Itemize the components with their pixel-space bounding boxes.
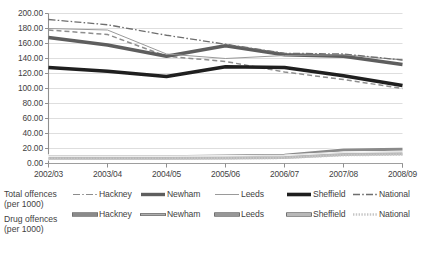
- legend-item-label: Newham: [167, 209, 200, 219]
- legend-item-sheffield-drug[interactable]: Sheffield: [286, 208, 345, 220]
- series-line: [49, 67, 403, 86]
- x-axis-tick-label: 2003/04: [78, 170, 138, 179]
- legend-swatch-dash-dot-thin: [72, 189, 98, 200]
- legend-group-drug-line1: Drug offences: [4, 214, 57, 224]
- x-axis-tick-label: 2006/07: [255, 170, 315, 179]
- legend-swatch-solid-thick-lightgrey: [286, 209, 312, 220]
- legend-item-hackney-drug[interactable]: Hackney: [72, 208, 132, 220]
- x-axis-tick-label: 2004/05: [137, 170, 197, 179]
- y-axis-tick-label: 40.00: [0, 129, 43, 137]
- axis-lines: [45, 14, 403, 168]
- x-axis-tick-label: 2008/09: [373, 170, 422, 179]
- y-axis-tick-label: 120.00: [0, 69, 43, 77]
- legend-item-national-total[interactable]: National: [352, 188, 410, 200]
- legend-item-leeds-total[interactable]: Leeds: [214, 188, 264, 200]
- x-axis-tick-label: 2007/08: [314, 170, 374, 179]
- y-axis-tick-label: 20.00: [0, 144, 43, 152]
- plot-area: 200.00180.00160.00140.00120.00100.0080.0…: [0, 0, 412, 178]
- legend-item-sheffield-total[interactable]: Sheffield: [286, 188, 345, 200]
- chart-plot-svg: [0, 0, 412, 178]
- legend-item-label: Leeds: [241, 209, 264, 219]
- legend-item-leeds-drug[interactable]: Leeds: [214, 208, 264, 220]
- legend-item-label: Sheffield: [313, 189, 345, 199]
- legend-item-newham-drug[interactable]: Newham: [140, 208, 200, 220]
- legend-item-label: National: [379, 189, 410, 199]
- legend-item-newham-total[interactable]: Newham: [140, 188, 200, 200]
- legend-swatch-solid-thick-grey: [72, 209, 98, 220]
- chart-legend: Total offences (per 1000) Drug offences …: [0, 186, 412, 253]
- y-axis-tick-label: 180.00: [0, 24, 43, 32]
- series-line: [49, 30, 403, 89]
- legend-group-drug-offences: Drug offences (per 1000): [4, 214, 57, 234]
- legend-item-label: Leeds: [241, 189, 264, 199]
- legend-group-drug-line2: (per 1000): [4, 224, 44, 234]
- y-axis-tick-label: 200.00: [0, 9, 43, 17]
- legend-item-label: National: [379, 209, 410, 219]
- y-axis-tick-label: 0.00: [0, 159, 43, 167]
- legend-item-label: Hackney: [99, 189, 132, 199]
- legend-swatch-solid-thick-midgrey: [214, 209, 240, 220]
- series-line: [49, 20, 403, 61]
- legend-swatch-solid-thin-open: [214, 189, 240, 200]
- series-line: [49, 38, 403, 65]
- y-axis-tick-label: 160.00: [0, 39, 43, 47]
- legend-swatch-solid-thick: [140, 189, 166, 200]
- data-series: [49, 20, 403, 159]
- legend-swatch-solid-thin-open-grey: [140, 209, 166, 220]
- legend-swatch-dotted-light: [352, 209, 378, 220]
- legend-item-label: Sheffield: [313, 209, 345, 219]
- legend-group-total-line2: (per 1000): [4, 199, 44, 209]
- y-axis-tick-label: 140.00: [0, 54, 43, 62]
- legend-swatch-solid-thick-black: [286, 189, 312, 200]
- legend-item-national-drug[interactable]: National: [352, 208, 410, 220]
- y-axis-tick-label: 60.00: [0, 114, 43, 122]
- legend-swatch-dash-dot: [352, 189, 378, 200]
- legend-item-label: Newham: [167, 189, 200, 199]
- legend-item-hackney-total[interactable]: Hackney: [72, 188, 132, 200]
- grid-lines: [49, 14, 403, 164]
- legend-group-total-offences: Total offences (per 1000): [4, 189, 57, 209]
- x-axis-tick-label: 2002/03: [19, 170, 79, 179]
- y-axis-tick-label: 100.00: [0, 84, 43, 92]
- legend-group-total-line1: Total offences: [4, 189, 57, 199]
- y-axis-tick-label: 80.00: [0, 99, 43, 107]
- legend-item-label: Hackney: [99, 209, 132, 219]
- x-axis-tick-label: 2005/06: [196, 170, 256, 179]
